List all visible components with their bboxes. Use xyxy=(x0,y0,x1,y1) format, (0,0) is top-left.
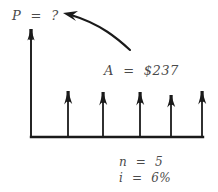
periods-label: n = 5 xyxy=(119,155,163,169)
cash-flow-diagram: P = ? A = $237 n = 5 i = 6% xyxy=(0,0,218,192)
cash-flow-arrow-1 xyxy=(64,91,72,137)
present-worth-arrow xyxy=(27,29,34,137)
cash-flow-arrow-2 xyxy=(99,92,107,137)
cash-flow-arrow-3 xyxy=(136,92,144,137)
discount-curved-arrow xyxy=(63,11,130,50)
present-worth-label: P = ? xyxy=(12,8,59,23)
interest-rate-label: i = 6% xyxy=(119,171,171,185)
cash-flow-arrow-5 xyxy=(198,91,206,137)
diagram-drawing xyxy=(0,0,218,192)
annuity-label: A = $237 xyxy=(104,63,179,78)
cash-flow-arrow-4 xyxy=(167,95,175,137)
